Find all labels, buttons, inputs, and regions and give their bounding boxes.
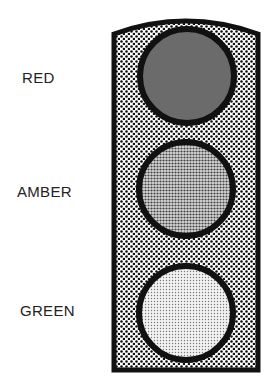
green-light	[139, 266, 233, 360]
traffic-light-diagram	[0, 0, 275, 388]
red-light	[140, 29, 234, 123]
amber-light	[139, 142, 233, 236]
